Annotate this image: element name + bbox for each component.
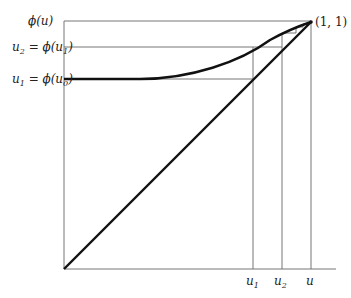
cobweb-diagram: ϕ(u) u2 = ϕ(u1) u1 = ϕ(u0) (1, 1) u1 u2 … bbox=[0, 0, 351, 298]
x-axis-label: u bbox=[306, 274, 314, 288]
y-axis-label: ϕ(u) bbox=[28, 14, 54, 28]
fixed-point bbox=[309, 20, 313, 24]
x-tick-u1: u1 bbox=[246, 274, 259, 290]
phi-curve bbox=[64, 22, 311, 79]
diagonal-line bbox=[64, 22, 311, 269]
fixed-point-label: (1, 1) bbox=[315, 15, 347, 29]
x-tick-u2: u2 bbox=[274, 274, 287, 290]
